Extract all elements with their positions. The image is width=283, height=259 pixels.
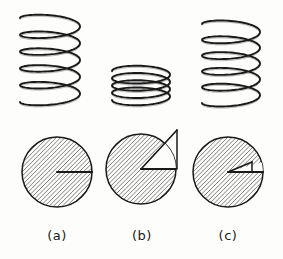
hatch-line: [64, 92, 138, 166]
hatch-line: [0, 87, 46, 161]
spring-wire-shade-c: [202, 22, 260, 108]
spring-wire-a: [20, 15, 80, 106]
spring-wire-c: [202, 20, 260, 106]
hatch-line: [0, 91, 50, 165]
panel-label-b: (b): [122, 228, 162, 243]
figure-root: (a) (b) (c): [0, 0, 283, 259]
hatch-line: [60, 88, 134, 162]
spring-wire-shade-a: [20, 16, 80, 107]
hatch-line: [68, 183, 142, 257]
hatch-line: [56, 84, 130, 158]
spring-c: [202, 20, 260, 108]
hatch-line: [0, 104, 63, 178]
hatch-line: [0, 102, 61, 176]
hatch-line: [152, 180, 226, 254]
hatch-line: [219, 163, 283, 237]
hatch-line: [0, 89, 48, 163]
spring-b: [112, 66, 170, 107]
panel-label-c: (c): [208, 228, 248, 243]
hatch-line: [143, 87, 217, 161]
hatch-line: [66, 181, 140, 255]
panel-label-a: (a): [37, 228, 77, 243]
hatch-line: [69, 97, 143, 171]
spring-a: [20, 15, 80, 107]
springs-group: [20, 15, 260, 108]
technical-drawing-canvas: [0, 0, 283, 259]
hatch-line: [237, 181, 283, 255]
